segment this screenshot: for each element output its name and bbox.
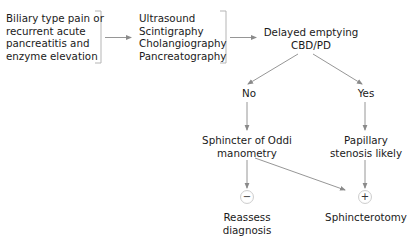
presentation-line: Biliary type pain or	[6, 12, 104, 25]
manometry-line: manometry	[202, 147, 292, 160]
investigation-line: Scintigraphy	[139, 25, 227, 38]
negative-result-icon: −	[240, 190, 254, 204]
positive-result-icon: +	[358, 190, 372, 204]
arrow-manometry-to-positive	[255, 158, 345, 190]
node-sphincterotomy: Sphincterotomy	[325, 211, 407, 224]
presentation-line: enzyme elevation	[6, 50, 104, 63]
node-presentation: Biliary type pain or recurrent acute pan…	[6, 12, 104, 62]
node-yes: Yes	[358, 87, 375, 100]
investigation-line: Cholangiography	[139, 37, 227, 50]
node-papillary: Papillary stenosis likely	[330, 134, 402, 159]
delayed-line: Delayed emptying	[264, 26, 359, 39]
node-investigations: Ultrasound Scintigraphy Cholangiography …	[139, 12, 227, 62]
presentation-line: pancreatitis and	[6, 37, 104, 50]
reassess-line: Reassess	[223, 211, 272, 224]
node-reassess: Reassess diagnosis	[223, 211, 272, 236]
investigation-line: Ultrasound	[139, 12, 227, 25]
reassess-line: diagnosis	[223, 224, 272, 237]
node-no: No	[242, 87, 256, 100]
node-manometry: Sphincter of Oddi manometry	[202, 134, 292, 159]
papillary-line: Papillary	[330, 134, 402, 147]
arrow-delayed-to-no	[248, 54, 298, 84]
papillary-line: stenosis likely	[330, 147, 402, 160]
arrow-delayed-to-yes	[313, 54, 362, 84]
presentation-line: recurrent acute	[6, 25, 104, 38]
investigation-line: Pancreatography	[139, 50, 227, 63]
delayed-line: CBD/PD	[264, 39, 359, 52]
node-delayed-emptying: Delayed emptying CBD/PD	[264, 26, 359, 51]
manometry-line: Sphincter of Oddi	[202, 134, 292, 147]
